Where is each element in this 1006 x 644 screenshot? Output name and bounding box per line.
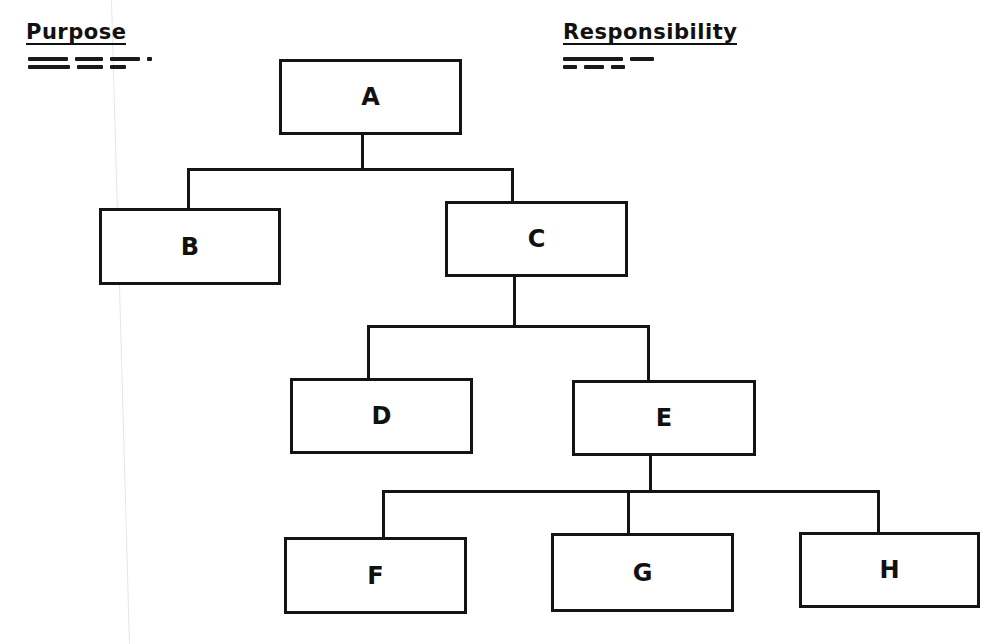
connector-to-e [647, 325, 650, 382]
connector-to-f [382, 490, 385, 539]
node-f: F [284, 537, 467, 614]
node-e-label: E [656, 404, 672, 432]
node-b: B [99, 208, 281, 285]
responsibility-heading: Responsibility [563, 21, 737, 45]
node-h-label: H [879, 556, 899, 584]
node-c-label: C [528, 225, 546, 253]
node-b-label: B [181, 233, 199, 261]
connector-e-down [649, 454, 652, 493]
connector-to-g [627, 490, 630, 535]
responsibility-notes-illegible [563, 57, 654, 69]
connector-to-h [877, 490, 880, 534]
node-c: C [445, 201, 628, 277]
node-f-label: F [367, 562, 383, 590]
scan-artifact-line [111, 0, 130, 644]
node-d-label: D [372, 402, 392, 430]
node-g-label: G [633, 559, 653, 587]
connector-e-branch [382, 490, 880, 493]
connector-to-d [367, 325, 370, 380]
connector-to-c [511, 168, 514, 203]
connector-c-branch [367, 325, 650, 328]
connector-to-b [187, 168, 190, 210]
node-d: D [290, 378, 473, 454]
node-a: A [279, 59, 462, 135]
purpose-notes-illegible [28, 57, 152, 69]
node-a-label: A [361, 83, 380, 111]
connector-a-branch [187, 168, 514, 171]
connector-c-down [513, 275, 516, 328]
connector-a-down [361, 133, 364, 171]
node-h: H [799, 532, 980, 608]
purpose-heading: Purpose [26, 21, 126, 45]
node-g: G [551, 533, 734, 612]
node-e: E [572, 380, 756, 456]
